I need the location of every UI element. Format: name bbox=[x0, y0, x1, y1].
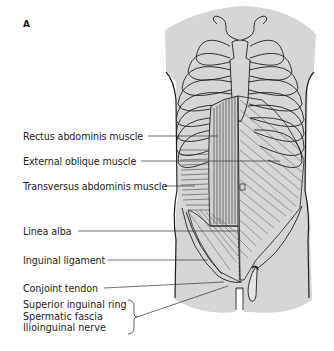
label-transversus-abdominis: Transversus abdominis muscle bbox=[23, 181, 167, 192]
label-conjoint-tendon: Conjoint tendon bbox=[23, 283, 98, 294]
label-external-oblique: External oblique muscle bbox=[23, 156, 136, 167]
bracket-label-group: Superior inguinal ring Spermatic fascia … bbox=[23, 299, 127, 334]
group-bracket bbox=[128, 300, 137, 334]
label-linea-alba: Linea alba bbox=[23, 226, 71, 237]
torso-silhouette bbox=[165, 6, 316, 313]
label-spermatic-fascia: Spermatic fascia bbox=[23, 311, 127, 323]
label-rectus-abdominis: Rectus abdominis muscle bbox=[23, 131, 143, 142]
label-inguinal-ligament: Inguinal ligament bbox=[23, 255, 105, 266]
abdominal-wall-figure: A Rectus abdominis muscle External obliq… bbox=[0, 0, 334, 351]
panel-letter: A bbox=[23, 19, 30, 29]
label-superior-inguinal-ring: Superior inguinal ring bbox=[23, 299, 127, 311]
label-ilioinguinal-nerve: Ilioinguinal nerve bbox=[23, 322, 127, 334]
